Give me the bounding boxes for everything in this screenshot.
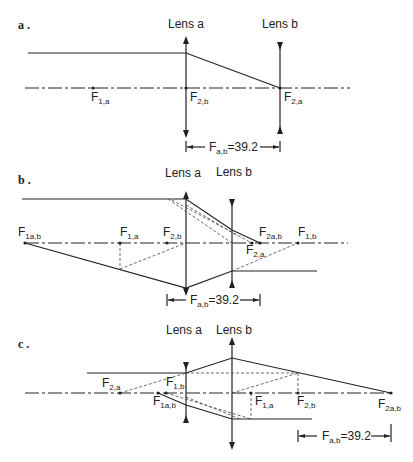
lens-arrow-icon — [229, 280, 235, 288]
dimension-label: Fa,b=39.2 — [322, 429, 371, 445]
lens-arrow-icon — [229, 442, 235, 450]
label-F1ab: F1a,b — [18, 225, 41, 241]
label-F2a: F2,a — [102, 376, 121, 392]
dimension-label: Fa,b=39.2 — [209, 140, 258, 156]
lens-arrow-icon — [183, 415, 189, 423]
dimension-fab: Fa,b=39.2 — [186, 140, 280, 156]
label-F2a: F2,a — [246, 243, 265, 259]
lens-arrow-icon — [183, 288, 189, 296]
lens-arrow-icon — [183, 36, 189, 44]
label-F2ab: F2a,b — [259, 225, 282, 241]
lens-a-label: Lens a — [166, 323, 202, 337]
label-F2ab: F2a,b — [378, 397, 401, 413]
lens-b-label: Lens b — [216, 323, 252, 337]
label-F2a: F2,a — [284, 90, 303, 106]
label-F2b: F2,b — [163, 225, 182, 241]
ray-lower — [158, 393, 312, 419]
lens-arrow-icon — [183, 191, 189, 199]
lens-arrow-icon — [277, 126, 283, 134]
panel-c-label: c . — [18, 337, 29, 351]
lens-a-label: Lens a — [165, 166, 201, 180]
panel-b-label: b . — [18, 173, 31, 187]
label-F1b: F1,b — [298, 225, 317, 241]
lens-arrow-icon — [277, 42, 283, 50]
lens-b-label: Lens b — [262, 17, 298, 31]
dimension-fab: Fa,b=39.2 — [167, 293, 260, 309]
ray-upper — [87, 358, 391, 393]
ray-upper — [22, 199, 260, 243]
label-F1b: F1,b — [166, 375, 185, 391]
ray — [28, 53, 280, 88]
lens-arrow-icon — [229, 337, 235, 345]
panel-a-label: a . — [18, 18, 30, 32]
ray-lower — [25, 243, 317, 288]
label-F1a: F1,a — [120, 225, 139, 241]
label-F1a: F1,a — [91, 90, 110, 106]
panel-b: b . Lens a Lens b F1a,b F1,a F2,b F2a,b — [18, 165, 348, 309]
lens-arrow-icon — [229, 199, 235, 207]
lens-arrow-icon — [183, 130, 189, 138]
panel-a: a . Lens a Lens b F1,a F2,b F2,a Fa — [18, 17, 350, 156]
dimension-label: Fa,b=39.2 — [190, 293, 239, 309]
lens-a-label: Lens a — [168, 17, 204, 31]
lens-b-label: Lens b — [216, 165, 252, 179]
label-F1a: F1,a — [255, 394, 274, 410]
label-F2b: F2,b — [297, 394, 316, 410]
focal-point — [184, 86, 187, 89]
lens-arrow-icon — [183, 362, 189, 370]
dimension-fab: Fa,b=39.2 — [298, 424, 391, 445]
focal-point — [278, 86, 281, 89]
panel-c: c . Lens a Lens b F2,a F1,b F1a,b — [18, 323, 401, 450]
label-F2b: F2,b — [190, 90, 209, 106]
lens-diagram: a . Lens a Lens b F1,a F2,b F2,a Fa — [0, 0, 413, 462]
